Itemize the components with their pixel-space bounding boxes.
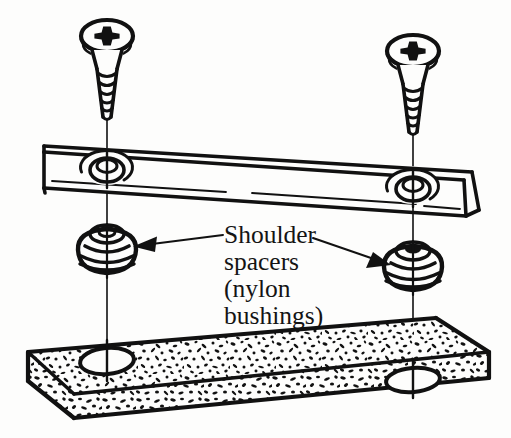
callout-line-3: (nylon [224, 274, 291, 303]
callout-line-4: bushings) [224, 301, 323, 330]
callout-line-2: spacers [224, 247, 299, 276]
callout-line-1: Shoulder [224, 220, 317, 249]
assembly-diagram-svg: Shoulder spacers (nylon bushings) [0, 0, 511, 438]
technical-illustration: Shoulder spacers (nylon bushings) [0, 0, 511, 438]
bracket-right-end-inner [464, 180, 466, 216]
